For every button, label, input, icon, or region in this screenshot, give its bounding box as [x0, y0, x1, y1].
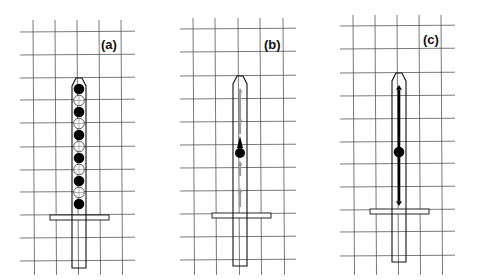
panel-c — [340, 15, 455, 275]
panel-label-a: (a) — [101, 38, 117, 51]
grid-line-horizontal — [180, 121, 296, 122]
grid-line-horizontal — [340, 95, 455, 96]
grid-line-horizontal — [180, 167, 296, 168]
filled-circle — [74, 199, 85, 210]
arrow-down-icon — [396, 201, 402, 206]
grid-line-horizontal — [20, 260, 135, 261]
grid-line-horizontal — [340, 25, 455, 26]
crosspiece-plate — [50, 215, 109, 220]
panel-label-c: (c) — [423, 33, 439, 46]
grid-line-vertical — [419, 15, 421, 275]
grid-line-vertical — [353, 15, 355, 275]
diagram-canvas — [0, 0, 477, 280]
grid-line-horizontal — [180, 28, 296, 29]
grid-line-horizontal — [340, 141, 455, 142]
grid-line-vertical — [99, 20, 101, 275]
filled-circle — [74, 107, 85, 118]
grid-line-vertical — [121, 20, 123, 275]
grid-line-horizontal — [340, 163, 455, 164]
filled-circle — [74, 130, 85, 141]
grid-line-vertical — [55, 20, 57, 275]
grid-line-horizontal — [20, 237, 135, 238]
grid-line-horizontal — [180, 236, 296, 237]
grid-line-vertical — [375, 15, 377, 275]
grid-line-horizontal — [340, 255, 455, 256]
grid-line-horizontal — [340, 48, 455, 49]
grid-line-horizontal — [20, 31, 135, 32]
filled-circle — [74, 84, 85, 95]
panel-b — [180, 18, 296, 275]
gray-arrowhead-icon — [237, 161, 242, 165]
filled-circle — [74, 176, 85, 187]
panel-a — [20, 20, 135, 275]
grid-line-horizontal — [340, 231, 455, 232]
grid-line-vertical — [441, 15, 443, 275]
grid-line-vertical — [33, 20, 35, 275]
grid-line-horizontal — [340, 118, 455, 119]
gray-arrowhead-icon — [237, 188, 242, 192]
grid-line-horizontal — [340, 186, 455, 187]
grid-line-horizontal — [180, 98, 296, 99]
center-dot — [394, 147, 405, 158]
grid-line-horizontal — [180, 259, 296, 260]
figure-three-panels: (a) (b) (c) — [0, 0, 477, 280]
filled-circle — [74, 153, 85, 164]
grid-line-horizontal — [180, 190, 296, 191]
crosspiece-plate — [370, 209, 429, 214]
black-arrowhead-icon — [237, 136, 243, 148]
grid-line-horizontal — [20, 54, 135, 55]
panel-label-b: (b) — [264, 38, 281, 51]
crosspiece-plate — [212, 213, 271, 218]
grid-line-vertical — [193, 18, 195, 275]
grid — [340, 15, 455, 275]
arrow-up-icon — [396, 85, 402, 90]
center-dot — [235, 148, 245, 158]
gray-arrowhead-icon — [237, 117, 242, 121]
